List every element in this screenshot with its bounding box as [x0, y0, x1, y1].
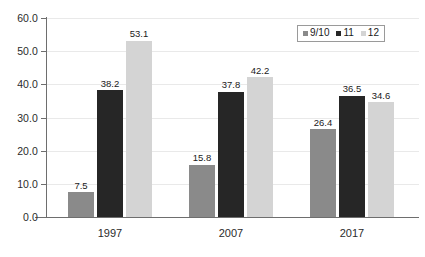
x-tick-label-2017: 2017 [312, 228, 392, 239]
bar-value-label: 34.6 [361, 91, 401, 101]
legend-item-12[interactable]: 12 [361, 28, 379, 38]
x-tick-label-1997: 1997 [70, 228, 150, 239]
y-tick-label: 40.0 [0, 79, 38, 90]
bar-value-label: 53.1 [119, 29, 159, 39]
y-tick-mark [41, 118, 46, 119]
bar-chart: 7.5 38.2 53.1 15.8 37.8 42.2 26.4 36.5 3… [0, 0, 425, 257]
y-tick-mark [41, 51, 46, 52]
legend-item-9-10[interactable]: 9/10 [303, 28, 329, 38]
y-tick-label: 10.0 [0, 179, 38, 190]
legend-label: 11 [343, 28, 353, 38]
y-axis-line [46, 17, 47, 218]
bar-1997-11 [97, 90, 123, 217]
gridline [47, 51, 419, 52]
bar-2017-11 [339, 96, 365, 217]
y-tick-label: 60.0 [0, 13, 38, 24]
legend-label: 9/10 [310, 28, 329, 38]
bar-2017-12 [368, 102, 394, 217]
y-tick-mark [41, 84, 46, 85]
bar-2007-9-10 [189, 165, 215, 217]
bar-value-label: 26.4 [303, 118, 343, 128]
bar-value-label: 7.5 [61, 181, 101, 191]
bar-value-label: 38.2 [90, 79, 130, 89]
bar-value-label: 15.8 [182, 153, 222, 163]
y-tick-label: 30.0 [0, 113, 38, 124]
bar-1997-9-10 [68, 192, 94, 217]
legend-item-11[interactable]: 11 [336, 28, 353, 38]
bar-value-label: 42.2 [240, 66, 280, 76]
y-tick-mark [41, 151, 46, 152]
bar-1997-12 [126, 41, 152, 217]
legend-swatch-icon [361, 31, 366, 36]
legend-swatch-icon [303, 31, 308, 36]
x-tick-label-2007: 2007 [191, 228, 271, 239]
legend-swatch-icon [336, 31, 341, 36]
y-tick-label: 20.0 [0, 146, 38, 157]
x-axis-line [35, 217, 419, 218]
plot-area: 7.5 38.2 53.1 15.8 37.8 42.2 26.4 36.5 3… [47, 18, 419, 217]
gridline [47, 18, 419, 19]
y-tick-mark [41, 217, 46, 218]
chart-legend: 9/10 11 12 [297, 25, 385, 42]
y-tick-mark [41, 18, 46, 19]
legend-label: 12 [368, 28, 379, 38]
bar-2007-12 [247, 77, 273, 217]
y-tick-label: 0.0 [0, 212, 38, 223]
y-tick-label: 50.0 [0, 46, 38, 57]
bar-value-label: 37.8 [211, 80, 251, 90]
y-tick-mark [41, 184, 46, 185]
bar-2017-9-10 [310, 129, 336, 217]
